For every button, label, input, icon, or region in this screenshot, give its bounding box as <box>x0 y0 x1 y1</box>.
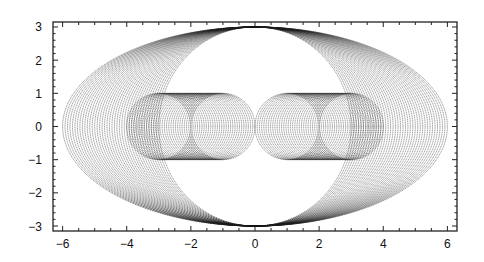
right-circles-curve <box>284 93 348 159</box>
right-circles-curve <box>290 93 354 159</box>
left-circles-curve <box>131 93 195 159</box>
outer-ellipses-curve <box>100 27 411 226</box>
left-circles-curve <box>180 93 244 159</box>
chart-svg: −6−4−20246 −3−2−10123 <box>0 0 484 262</box>
y-tick-label: 2 <box>35 54 42 68</box>
left-circles-curve <box>173 93 237 159</box>
right-circles-curve <box>273 93 337 159</box>
y-tick-label: 3 <box>35 20 42 34</box>
left-circles-curve <box>138 93 202 159</box>
right-circles-curve <box>270 93 334 159</box>
left-circles-curve <box>186 93 250 159</box>
outer-ellipses-curve <box>97 27 413 226</box>
y-tick-label: 1 <box>35 87 42 101</box>
x-tick-label: −4 <box>120 237 134 251</box>
x-tick-label: 0 <box>252 237 259 251</box>
right-circles-curve <box>295 93 359 159</box>
left-circles-curve <box>136 93 200 159</box>
left-circles-curve <box>158 93 222 159</box>
right-circles-curve <box>275 93 339 159</box>
outer-ellipses-curve <box>90 27 421 226</box>
right-circles-curve <box>315 93 379 159</box>
y-tick-label: −2 <box>28 186 42 200</box>
right-circles-curve <box>266 93 330 159</box>
right-circles-curve <box>268 93 332 159</box>
y-tick-label: 0 <box>35 120 42 134</box>
left-circles-curve <box>184 93 248 159</box>
outer-ellipses-curve <box>159 27 351 226</box>
right-circles-curve <box>279 93 343 159</box>
outer-ellipses-curve <box>95 27 416 226</box>
outer-ellipses-curve <box>77 27 432 226</box>
outer-ellipses-curve <box>70 27 440 226</box>
left-circles-curve <box>149 93 213 159</box>
left-circles-curve <box>153 93 217 159</box>
outer-ellipses-curve <box>92 27 418 226</box>
outer-ellipses-curve <box>63 27 448 226</box>
y-tick-label: −3 <box>28 220 42 234</box>
left-circles-curve <box>129 93 193 159</box>
right-circles-curve <box>259 93 323 159</box>
right-circles-curve <box>277 93 341 159</box>
right-circles-curve <box>282 93 346 159</box>
outer-ellipses-curve <box>80 27 430 226</box>
right-circles-curve <box>312 93 376 159</box>
left-circles-curve <box>175 93 239 159</box>
right-circles-curve <box>297 93 361 159</box>
x-tick-label: 6 <box>444 237 451 251</box>
outer-ellipses-curve <box>75 27 435 226</box>
right-circles-curve <box>262 93 326 159</box>
right-circles-curve <box>310 93 374 159</box>
y-axis-tick-labels: −3−2−10123 <box>28 20 42 233</box>
outer-ellipses-curve <box>68 27 443 226</box>
left-circles-curve <box>182 93 246 159</box>
outer-ellipses-curve <box>87 27 422 226</box>
left-circles-curve <box>133 93 197 159</box>
x-tick-label: 4 <box>380 237 387 251</box>
outer-ellipses-curve <box>72 27 437 226</box>
outer-ellipses-curve <box>154 27 356 226</box>
right-circles-curve <box>264 93 328 159</box>
right-circles-curve <box>317 93 381 159</box>
left-circles-curve <box>167 93 231 159</box>
left-circles-curve <box>189 93 253 159</box>
outer-ellipses-curve <box>156 27 353 226</box>
right-circles-curve <box>286 93 350 159</box>
left-circles-curve <box>191 93 255 159</box>
left-circles-curve <box>151 93 215 159</box>
x-axis-tick-labels: −6−4−20246 <box>56 237 451 251</box>
plot-curves <box>63 27 448 226</box>
left-circles-curve <box>178 93 242 159</box>
y-tick-label: −1 <box>28 153 42 167</box>
right-circles-curve <box>255 93 319 159</box>
outer-ellipses-curve <box>85 27 425 226</box>
left-circles-curve <box>171 93 235 159</box>
x-tick-label: 2 <box>316 237 323 251</box>
right-circles-curve <box>308 93 372 159</box>
left-circles-curve <box>162 93 226 159</box>
left-circles-curve <box>160 93 224 159</box>
left-circles-curve <box>169 93 233 159</box>
left-circles-curve <box>164 93 228 159</box>
right-circles-curve <box>288 93 352 159</box>
outer-ellipses-curve <box>139 27 371 226</box>
x-tick-label: −2 <box>184 237 198 251</box>
right-circles-curve <box>293 93 357 159</box>
left-circles-curve <box>147 93 211 159</box>
left-circles-curve <box>155 93 219 159</box>
x-tick-label: −6 <box>56 237 70 251</box>
outer-ellipses-curve <box>65 27 445 226</box>
right-circles-curve <box>257 93 321 159</box>
